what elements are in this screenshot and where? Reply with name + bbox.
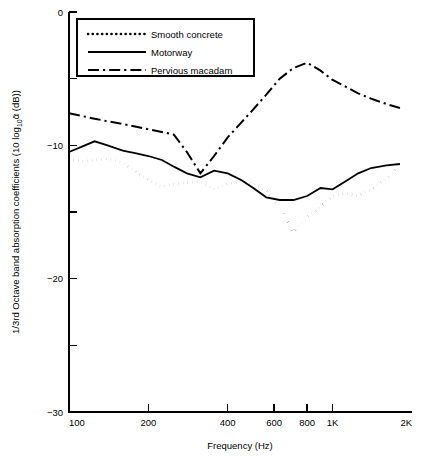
- legend-label: Smooth concrete: [151, 29, 223, 40]
- x-tick-label: 2K: [400, 417, 412, 428]
- x-tick-label: 400: [220, 417, 236, 428]
- legend: Smooth concreteMotorwayPervious macadam: [77, 19, 254, 76]
- series-line-motorway: [69, 141, 400, 200]
- y-axis-title: 1/3rd Octave band absorption coefficient…: [10, 90, 23, 334]
- y-axis-ticks: 0−10−20−30: [47, 7, 77, 418]
- figure-container: 0−10−20−30 1002004006008001K2K Frequency…: [0, 0, 428, 463]
- x-tick-label: 800: [299, 417, 315, 428]
- data-series-layer: [69, 63, 400, 232]
- x-axis-title: Frequency (Hz): [207, 440, 272, 451]
- x-tick-label: 100: [69, 417, 85, 428]
- absorption-coefficient-chart: 0−10−20−30 1002004006008001K2K Frequency…: [0, 0, 428, 463]
- series-line-pervious-macadam: [69, 63, 400, 174]
- y-tick-label: 0: [58, 7, 63, 18]
- x-tick-label: 200: [140, 417, 156, 428]
- series-line-smooth-concrete: [69, 159, 400, 232]
- x-axis-ticks: 1002004006008001K2K: [69, 404, 413, 428]
- legend-label: Motorway: [151, 47, 192, 58]
- x-tick-label: 1K: [327, 417, 339, 428]
- x-tick-label: 600: [266, 417, 282, 428]
- y-tick-label: −20: [47, 273, 63, 284]
- legend-label: Pervious macadam: [151, 65, 232, 76]
- y-tick-label: −10: [47, 140, 63, 151]
- y-tick-label: −30: [47, 407, 63, 418]
